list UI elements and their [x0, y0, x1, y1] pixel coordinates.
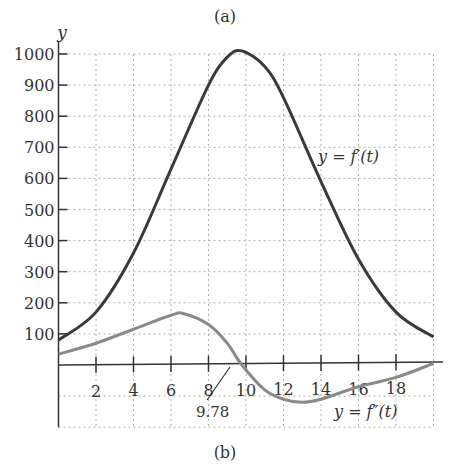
svg-text:500: 500 [24, 201, 55, 220]
axes [59, 42, 443, 428]
svg-text:900: 900 [24, 76, 55, 95]
svg-text:18: 18 [386, 379, 406, 398]
annotation-label: 9.78 [196, 403, 229, 421]
svg-text:300: 300 [24, 263, 55, 282]
svg-text:4: 4 [128, 381, 138, 400]
label-b: (b) [214, 443, 237, 462]
fdouble-label: y = f″(t) [333, 402, 397, 421]
fprime-label: y = f′(t) [317, 147, 379, 166]
svg-text:700: 700 [24, 138, 55, 157]
svg-text:1000: 1000 [14, 45, 55, 64]
svg-text:400: 400 [24, 232, 55, 251]
tick-labels: 1002003004005006007008009001000246810121… [14, 45, 406, 401]
svg-text:600: 600 [24, 169, 55, 188]
svg-text:6: 6 [166, 381, 176, 400]
y-axis-label: y [56, 22, 67, 42]
label-a: (a) [214, 7, 236, 26]
svg-text:200: 200 [24, 294, 55, 313]
svg-text:800: 800 [24, 107, 55, 126]
svg-text:10: 10 [236, 381, 256, 400]
svg-text:100: 100 [24, 325, 55, 344]
chart: 1002003004005006007008009001000246810121… [0, 0, 450, 470]
svg-text:2: 2 [91, 382, 101, 401]
